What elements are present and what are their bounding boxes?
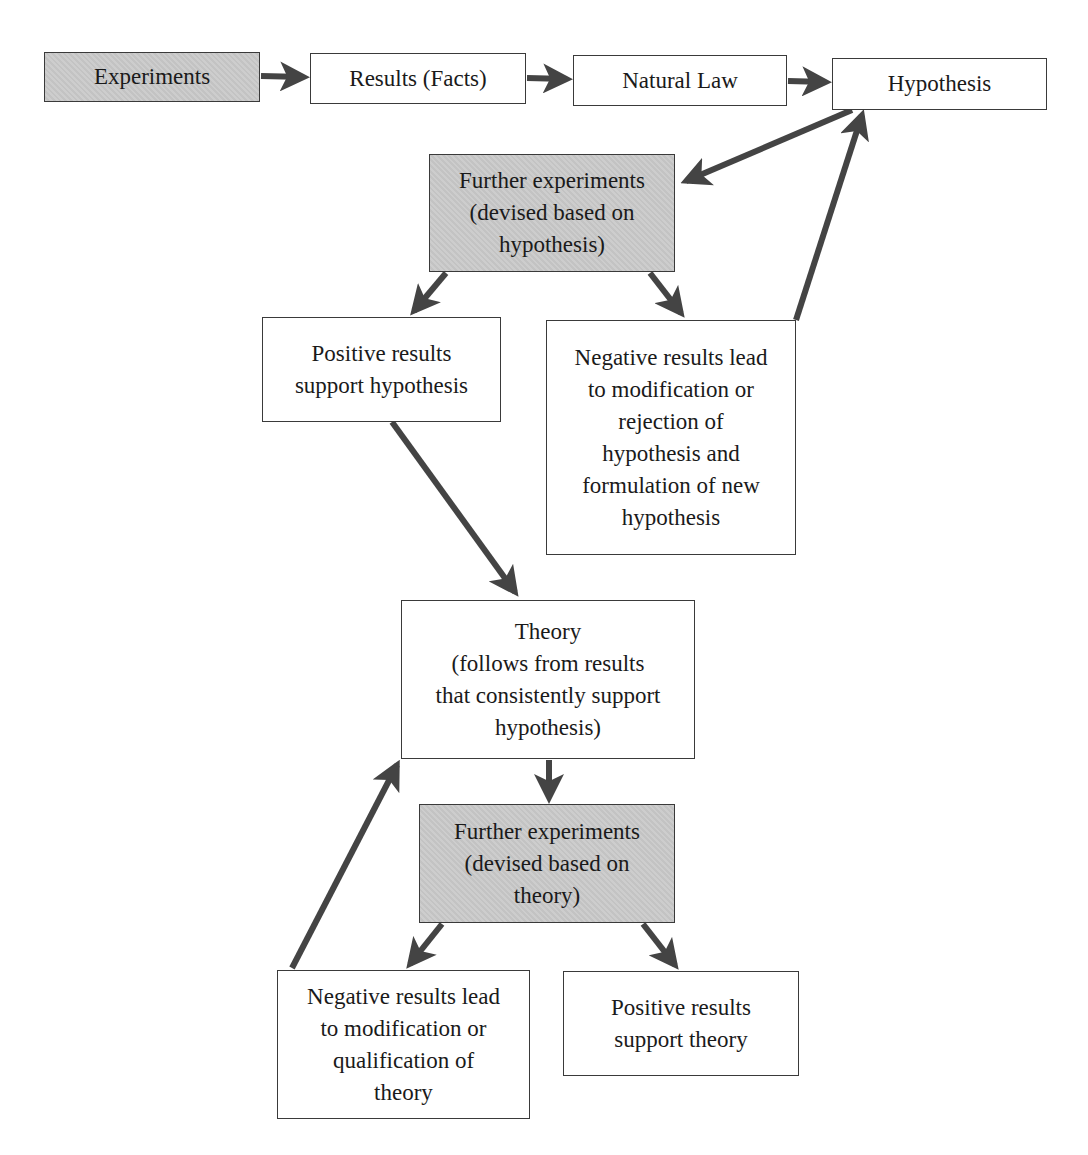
node-hypothesis: Hypothesis (832, 58, 1047, 110)
arrow-negative-to-hypothesis (796, 115, 862, 320)
node-negative-modify-theory: Negative results lead to modification or… (277, 970, 530, 1119)
arrow-natural-law-to-hypothesis (788, 81, 826, 82)
arrow-negative-theory-to-theory (292, 765, 397, 968)
node-positive-support-hypothesis: Positive results support hypothesis (262, 317, 501, 422)
node-negative-modify-theory-label: Negative results lead to modification or… (307, 981, 500, 1109)
arrow-positive-to-theory (392, 422, 515, 592)
node-theory: Theory (follows from results that consis… (401, 600, 695, 759)
node-further-experiments-hypothesis-label: Further experiments (devised based on hy… (459, 165, 645, 261)
arrow-hypothesis-to-further-experiments (686, 110, 852, 181)
node-natural-law: Natural Law (573, 55, 787, 106)
node-positive-support-hypothesis-label: Positive results support hypothesis (295, 338, 468, 402)
node-experiments-label: Experiments (94, 61, 210, 93)
node-experiments: Experiments (44, 52, 260, 102)
arrow-further-experiments-to-negative (650, 273, 681, 313)
arrow-further-experiments-to-positive (414, 273, 446, 311)
node-further-experiments-theory: Further experiments (devised based on th… (419, 804, 675, 923)
node-results-facts: Results (Facts) (310, 53, 526, 104)
arrow-further-experiments-to-negative-theory (410, 924, 442, 964)
node-further-experiments-theory-label: Further experiments (devised based on th… (454, 816, 640, 912)
node-negative-modify-hypothesis-label: Negative results lead to modification or… (575, 342, 768, 534)
node-negative-modify-hypothesis: Negative results lead to modification or… (546, 320, 796, 555)
node-positive-support-theory: Positive results support theory (563, 971, 799, 1076)
node-positive-support-theory-label: Positive results support theory (611, 992, 751, 1056)
node-further-experiments-hypothesis: Further experiments (devised based on hy… (429, 154, 675, 272)
arrow-further-experiments-to-positive-theory (643, 924, 675, 965)
node-theory-label: Theory (follows from results that consis… (436, 616, 661, 744)
arrow-experiments-to-results (261, 76, 304, 77)
node-hypothesis-label: Hypothesis (888, 68, 992, 100)
arrow-results-to-natural-law (527, 78, 567, 79)
node-natural-law-label: Natural Law (622, 65, 738, 97)
node-results-facts-label: Results (Facts) (349, 63, 486, 95)
